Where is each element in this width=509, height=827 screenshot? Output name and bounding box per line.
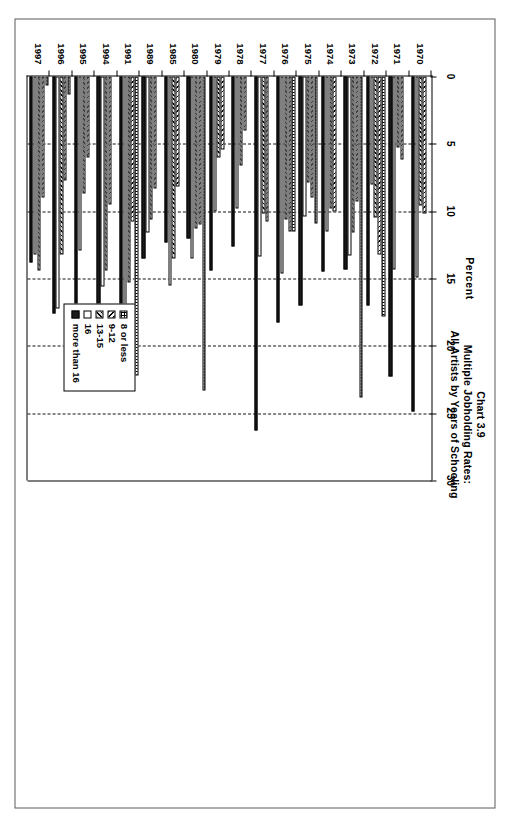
bar-group: 1975 [296,76,318,480]
x-axis-tick-label: 15 [444,272,455,283]
legend-label: more than 16 [69,323,81,382]
y-axis-tick [363,70,364,76]
bar [332,76,335,211]
bar [392,76,395,269]
bar-group: 1985 [162,76,184,480]
bar [41,76,44,197]
bar [198,76,201,224]
bar [321,76,324,271]
y-axis-tick [340,70,341,76]
y-axis-tick [273,70,274,76]
bar [355,76,358,201]
legend-swatch-icon [83,310,91,318]
bar [235,76,238,208]
y-axis-tick [295,70,296,76]
x-axis-tick-label: 0 [444,73,455,79]
bar [63,76,66,180]
bar [325,76,328,231]
figure-frame: Chart 3.9 Multiple Jobholding Rates: All… [14,18,495,808]
bar [373,76,376,217]
y-axis-category-label: 1989 [145,43,156,64]
bar-group: 1970 [409,76,431,480]
x-axis-tick-label: 25 [444,407,455,418]
bar [82,76,85,193]
bar-group: 1996 [49,76,71,480]
bar [123,76,126,317]
rotated-figure: Chart 3.9 Multiple Jobholding Rates: All… [0,0,509,827]
bar-group: 1977 [251,76,273,480]
chart-page: Chart 3.9 Multiple Jobholding Rates: All… [0,0,509,827]
bar [280,76,283,273]
bar [52,76,55,313]
legend-swatch-icon [95,310,103,318]
y-axis-tick [228,70,229,76]
y-axis-tick [206,70,207,76]
bar-group: 1978 [229,76,251,480]
bar [78,76,81,250]
y-axis-tick [138,70,139,76]
bar-group: 1989 [139,76,161,480]
bar [149,76,152,219]
bar-group: 1980 [184,76,206,480]
y-axis-category-label: 1972 [369,43,380,64]
y-axis-tick [161,70,162,76]
bar [284,76,287,219]
plot-area: Percent 051015202530 1970197119721973197… [26,75,432,480]
bar [377,76,380,254]
y-axis-category-label: 1978 [235,43,246,64]
bar [164,76,167,242]
y-axis-category-label: 1970 [414,43,425,64]
bar [396,76,399,147]
bar [347,76,350,255]
y-axis-tick [385,70,386,76]
bar [194,76,197,228]
bar [108,76,111,204]
x-axis-title: Percent [463,257,475,300]
bar-group: 1995 [72,76,94,480]
y-axis-tick [116,70,117,76]
x-axis-tick-label: 10 [444,205,455,216]
legend-label: 9-12 [105,323,117,342]
bar [381,76,384,316]
bar [37,76,40,270]
bar [209,76,212,270]
bar [29,76,32,262]
bar [33,76,36,254]
bar [45,76,48,85]
bar [216,76,219,157]
legend-item: 9-12 [105,310,117,382]
bar [130,76,133,221]
y-axis-category-label: 1977 [257,43,268,64]
y-axis-category-label: 1991 [123,43,134,64]
legend-label: 8 or less [117,323,129,362]
bar-group: 1972 [364,76,386,480]
legend-label: 13-15 [93,323,105,347]
bar [343,76,346,269]
bar [314,76,317,223]
bar [67,76,70,94]
x-axis-tick-label: 20 [444,340,455,351]
bar [415,76,418,277]
page-title: Chart 3.9 [473,19,486,809]
bar [220,76,223,149]
bar [302,76,305,216]
bar [298,76,301,305]
bar [329,76,332,208]
y-axis-category-label: 1979 [212,43,223,64]
bar [100,76,103,286]
y-axis-tick [48,70,49,76]
y-axis-tick [71,70,72,76]
legend-item: more than 16 [69,310,81,382]
bar [422,76,425,213]
bar [171,76,174,258]
y-axis-tick [430,70,431,76]
bar [127,76,130,282]
bar [239,76,242,165]
bar [366,76,369,305]
bar-group: 1979 [207,76,229,480]
bar-group: 1973 [341,76,363,480]
legend-item: 8 or less [117,310,129,382]
bar [145,76,148,232]
bar [168,76,171,285]
bar [310,76,313,197]
